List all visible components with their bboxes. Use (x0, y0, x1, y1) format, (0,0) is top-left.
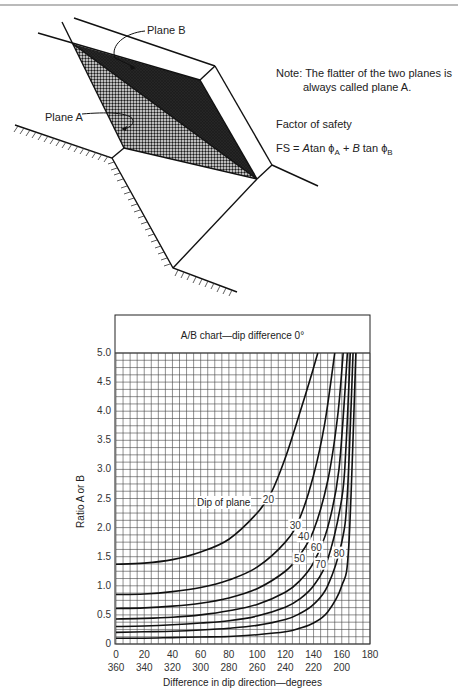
ab-chart: 0204060801001201401601803603403203002802… (97, 315, 379, 673)
svg-text:1.0: 1.0 (97, 580, 111, 591)
svg-text:60: 60 (195, 649, 207, 660)
curve-label-20: 20 (263, 494, 275, 505)
svg-text:3.0: 3.0 (97, 463, 111, 474)
plane-a-label: Plane A (45, 111, 83, 124)
formula-tan-b: tan (363, 142, 378, 154)
svg-text:320: 320 (164, 662, 181, 673)
svg-text:240: 240 (277, 662, 294, 673)
svg-text:4.0: 4.0 (97, 405, 111, 416)
svg-text:280: 280 (221, 662, 238, 673)
formula-tan-a: tan (310, 142, 325, 154)
svg-text:0: 0 (105, 638, 111, 649)
curve-label-70: 70 (315, 559, 327, 570)
svg-text:0: 0 (113, 649, 119, 660)
svg-text:200: 200 (333, 662, 350, 673)
svg-text:220: 220 (305, 662, 322, 673)
svg-text:360: 360 (108, 662, 125, 673)
formula-lhs: FS = (276, 142, 300, 154)
note-line-1: Note: The flatter of the two planes is (276, 67, 452, 80)
svg-text:140: 140 (305, 649, 322, 660)
svg-text:5.0: 5.0 (97, 347, 111, 358)
y-axis-label: Ratio A or B (74, 462, 87, 542)
phi-b-subscript: B (387, 148, 392, 157)
curve-label-40: 40 (298, 531, 310, 542)
svg-text:3.5: 3.5 (97, 434, 111, 445)
fos-title: Factor of safety (276, 118, 352, 131)
curve-label-30: 30 (290, 520, 302, 531)
chart-title: A/B chart—dip difference 0° (115, 329, 370, 342)
formula-plus: + (343, 142, 349, 154)
intersection-line (73, 44, 257, 179)
figure-canvas: 0204060801001201401601803603403203002802… (0, 0, 458, 700)
svg-text:100: 100 (249, 649, 266, 660)
svg-text:160: 160 (333, 649, 350, 660)
svg-text:340: 340 (136, 662, 153, 673)
svg-text:120: 120 (277, 649, 294, 660)
note-line-2: always called plane A. (303, 81, 411, 94)
svg-text:300: 300 (192, 662, 209, 673)
fos-formula: FS = Atan ϕA + B tan ϕB (276, 142, 393, 159)
curve-label-60: 60 (311, 542, 323, 553)
svg-text:40: 40 (167, 649, 179, 660)
curve-dip-20 (116, 353, 318, 564)
svg-text:4.5: 4.5 (97, 376, 111, 387)
formula-b: B (352, 142, 359, 154)
svg-text:260: 260 (249, 662, 266, 673)
phi-a-subscript: A (334, 148, 339, 157)
axis-ticks: 0204060801001201401601803603403203002802… (97, 347, 379, 673)
svg-text:80: 80 (223, 649, 235, 660)
curve-label-80: 80 (333, 548, 345, 559)
svg-text:180: 180 (362, 649, 379, 660)
plane-b-label: Plane B (147, 24, 186, 37)
svg-text:20: 20 (139, 649, 151, 660)
svg-text:2.0: 2.0 (97, 522, 111, 533)
svg-text:0.5: 0.5 (97, 609, 111, 620)
wedge-diagram (14, 18, 318, 296)
svg-text:1.5: 1.5 (97, 551, 111, 562)
formula-a: A (303, 142, 310, 154)
x-axis-label: Difference in dip direction—degrees (115, 676, 370, 689)
curve-label-50: 50 (294, 553, 306, 564)
dip-of-plane-annotation: Dip of plane (196, 496, 251, 509)
svg-text:2.5: 2.5 (97, 493, 111, 504)
